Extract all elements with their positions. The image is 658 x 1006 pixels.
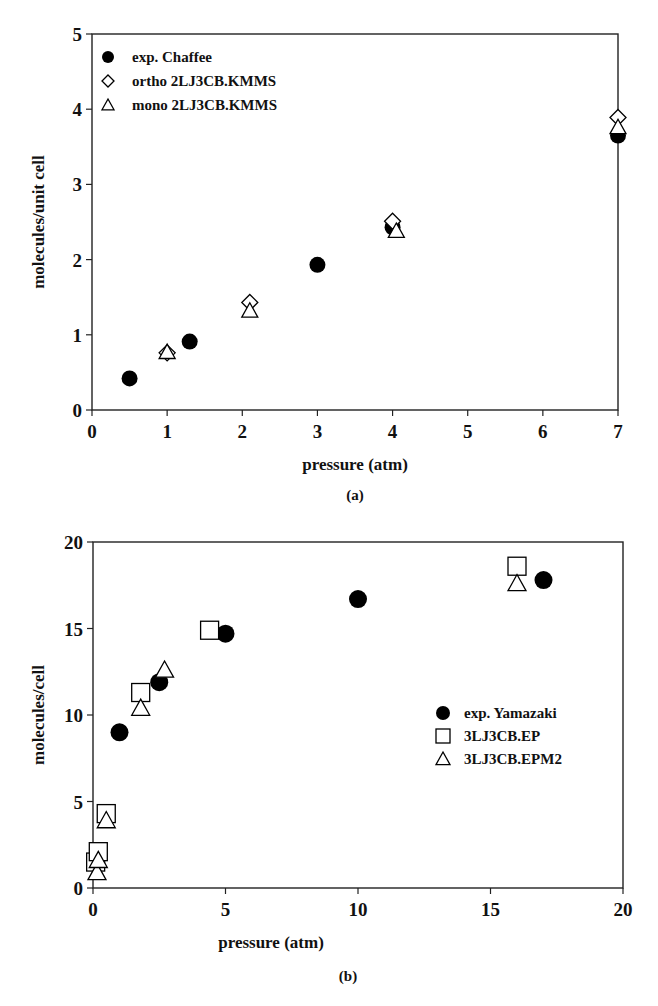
legend-label: exp. Chaffee xyxy=(132,49,212,65)
y-tick-label: 3 xyxy=(73,174,83,195)
y-tick-label: 4 xyxy=(73,99,83,120)
series-3lj3cb-epm2 xyxy=(88,575,526,880)
x-tick-label: 10 xyxy=(349,899,368,920)
legend-b: exp. Yamazaki3LJ3CB.EP3LJ3CB.EPM2 xyxy=(436,705,562,767)
filled-circle-marker xyxy=(309,257,325,273)
x-tick-label: 7 xyxy=(613,421,623,442)
open-triangle-marker xyxy=(436,752,450,765)
x-tick-label: 5 xyxy=(463,421,473,442)
y-axis-title-a: molecules/unit cell xyxy=(29,155,48,289)
open-triangle-marker xyxy=(156,661,174,677)
data-points-a xyxy=(122,109,626,386)
legend-item: exp. Yamazaki xyxy=(436,705,557,721)
legend-item: 3LJ3CB.EP xyxy=(436,728,540,744)
y-tick-label: 1 xyxy=(73,325,83,346)
x-tick-label: 5 xyxy=(221,899,231,920)
filled-circle-marker xyxy=(102,51,114,63)
legend-a: exp. Chaffeeortho 2LJ3CB.KMMSmono 2LJ3CB… xyxy=(102,49,277,113)
y-axis-title-b: molecules/cell xyxy=(29,665,48,765)
open-triangle-marker xyxy=(610,119,626,133)
legend-label: exp. Yamazaki xyxy=(464,705,557,721)
chart-panel-b: 0510152005101520 exp. Yamazaki3LJ3CB.EP3… xyxy=(29,532,633,985)
open-square-marker xyxy=(201,621,219,639)
x-tick-label: 0 xyxy=(88,899,98,920)
open-triangle-marker xyxy=(508,575,526,591)
legend-item: 3LJ3CB.EPM2 xyxy=(436,751,562,767)
x-tick-label: 4 xyxy=(388,421,398,442)
legend-item: exp. Chaffee xyxy=(102,49,212,65)
x-axis-title-a: pressure (atm) xyxy=(302,455,408,474)
legend-label: mono 2LJ3CB.KMMS xyxy=(132,97,277,113)
panel-label-b: (b) xyxy=(339,968,357,985)
y-tick-label: 5 xyxy=(74,792,84,813)
y-tick-label: 2 xyxy=(73,250,83,271)
open-square-marker xyxy=(436,729,450,743)
open-triangle-marker xyxy=(102,99,114,110)
chart-panel-a: 01234567012345 exp. Chaffeeortho 2LJ3CB.… xyxy=(29,24,626,504)
filled-circle-marker xyxy=(122,370,138,386)
open-diamond-marker xyxy=(102,75,114,87)
legend-item: mono 2LJ3CB.KMMS xyxy=(102,97,277,113)
filled-circle-marker xyxy=(182,334,198,350)
series-mono-2lj3cb-kmms xyxy=(159,119,626,358)
series-exp-chaffee xyxy=(122,128,626,387)
x-tick-label: 1 xyxy=(162,421,172,442)
legend-item: ortho 2LJ3CB.KMMS xyxy=(102,73,276,89)
axis-ticks-b: 0510152005101520 xyxy=(64,532,633,920)
x-tick-label: 15 xyxy=(481,899,500,920)
filled-circle-marker xyxy=(111,723,129,741)
filled-circle-marker xyxy=(349,590,367,608)
open-square-marker xyxy=(508,557,526,575)
x-tick-label: 3 xyxy=(313,421,323,442)
y-tick-label: 0 xyxy=(74,878,84,899)
panel-label-a: (a) xyxy=(346,487,364,504)
y-tick-label: 20 xyxy=(64,532,83,553)
x-tick-label: 20 xyxy=(614,899,633,920)
filled-circle-marker xyxy=(436,706,450,720)
legend-label: 3LJ3CB.EPM2 xyxy=(464,751,562,767)
x-tick-label: 6 xyxy=(538,421,548,442)
y-tick-label: 15 xyxy=(64,619,83,640)
filled-circle-marker xyxy=(535,571,553,589)
y-tick-label: 0 xyxy=(73,400,83,421)
legend-label: ortho 2LJ3CB.KMMS xyxy=(132,73,276,89)
x-tick-label: 0 xyxy=(87,421,97,442)
figure: 01234567012345 exp. Chaffeeortho 2LJ3CB.… xyxy=(0,0,658,1006)
x-axis-title-b: pressure (atm) xyxy=(218,933,324,952)
legend-label: 3LJ3CB.EP xyxy=(464,728,540,744)
y-tick-label: 5 xyxy=(73,24,83,45)
x-tick-label: 2 xyxy=(238,421,248,442)
series-3lj3cb-ep xyxy=(87,557,526,871)
y-tick-label: 10 xyxy=(64,705,83,726)
